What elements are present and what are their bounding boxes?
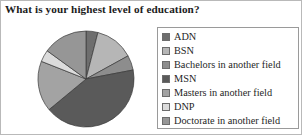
legend-swatch-icon xyxy=(162,89,170,97)
legend-item-label: MSN xyxy=(174,73,196,85)
legend-swatch-icon xyxy=(162,75,170,83)
legend: ADNBSNBachelors in another fieldMSNMaste… xyxy=(157,27,299,129)
legend-swatch-icon xyxy=(162,61,170,69)
pie-chart-area xyxy=(1,17,153,135)
legend-item[interactable]: DNP xyxy=(162,100,295,114)
pie-slice-group xyxy=(38,31,134,127)
legend-item[interactable]: BSN xyxy=(162,44,295,58)
legend-item-label: BSN xyxy=(174,45,194,57)
legend-item-label: DNP xyxy=(174,101,195,113)
legend-swatch-icon xyxy=(162,103,170,111)
legend-item[interactable]: Bachelors in another field xyxy=(162,58,295,72)
legend-item-label: Masters in another field xyxy=(174,87,272,99)
legend-swatch-icon xyxy=(162,117,170,125)
legend-item-label: ADN xyxy=(174,31,196,43)
legend-swatch-icon xyxy=(162,33,170,41)
legend-item-label: Doctorate in another field xyxy=(174,115,280,127)
legend-item[interactable]: MSN xyxy=(162,72,295,86)
pie-chart-figure: What is your highest level of education?… xyxy=(0,0,302,135)
legend-item[interactable]: ADN xyxy=(162,30,295,44)
legend-item[interactable]: Masters in another field xyxy=(162,86,295,100)
legend-item[interactable]: Doctorate in another field xyxy=(162,114,295,128)
legend-swatch-icon xyxy=(162,47,170,55)
page-title: What is your highest level of education? xyxy=(5,2,200,16)
pie-chart-svg xyxy=(1,17,153,135)
legend-item-label: Bachelors in another field xyxy=(174,59,281,71)
